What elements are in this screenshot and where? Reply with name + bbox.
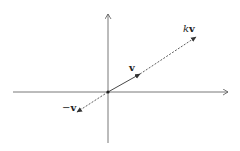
- label-kv: kv: [183, 23, 196, 34]
- label-neg-v: −v: [62, 102, 77, 113]
- label-v: v: [128, 62, 136, 73]
- origin-point: [106, 90, 109, 93]
- v-vector: [108, 74, 140, 92]
- kv-vector: [140, 37, 196, 74]
- neg-v-vector: [77, 92, 108, 112]
- vector-diagram: v kv −v: [0, 0, 240, 151]
